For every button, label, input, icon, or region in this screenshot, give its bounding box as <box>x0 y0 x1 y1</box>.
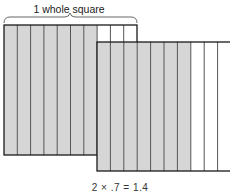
shaded-column <box>17 25 30 155</box>
shaded-column <box>110 42 123 171</box>
shaded-column <box>71 25 84 155</box>
shaded-column <box>44 25 57 155</box>
shaded-column <box>57 25 70 155</box>
shaded-column <box>164 42 177 171</box>
unshaded-column <box>218 42 230 171</box>
equation-text: 2 × .7 = 1.4 <box>60 182 180 191</box>
square-2 <box>97 42 230 171</box>
shaded-column <box>84 25 97 155</box>
squares-figure <box>0 0 230 191</box>
shaded-column <box>31 25 44 155</box>
whole-square-brace <box>4 13 137 23</box>
unshaded-column <box>191 42 204 171</box>
shaded-column <box>137 42 150 171</box>
decimal-multiplication-diagram: 1 whole square 2 × .7 = 1.4 <box>0 0 230 191</box>
shaded-column <box>177 42 190 171</box>
unshaded-column <box>204 42 217 171</box>
shaded-column <box>4 25 17 155</box>
shaded-column <box>151 42 164 171</box>
shaded-column <box>97 42 110 171</box>
shaded-column <box>124 42 137 171</box>
